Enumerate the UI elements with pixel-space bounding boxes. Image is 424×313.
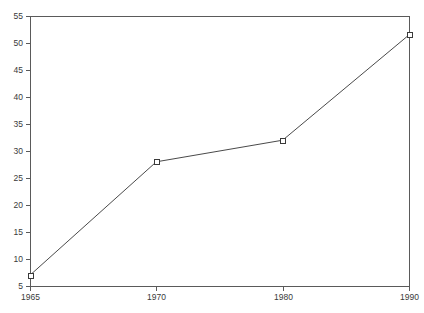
y-tick-label: 40 — [14, 92, 24, 102]
y-tick-label: 15 — [14, 227, 24, 237]
chart-canvas: 510152025303540455055 1965197019801990 1… — [0, 0, 424, 313]
x-tick-label: 1970 — [147, 292, 166, 302]
y-tick-label: 25 — [14, 173, 24, 183]
line-chart: 510152025303540455055 1965197019801990 1… — [0, 0, 424, 313]
data-point-marker: 1970: 28 — [155, 160, 160, 165]
x-tick-label: 1965 — [21, 292, 40, 302]
data-point-marker: 1990: 51.5 — [408, 33, 413, 38]
y-tick-label: 50 — [14, 38, 24, 48]
y-tick-label: 10 — [14, 254, 24, 264]
chart-background — [0, 0, 424, 313]
x-tick-label: 1980 — [274, 292, 293, 302]
y-tick-label: 35 — [14, 119, 24, 129]
y-tick-label: 45 — [14, 65, 24, 75]
data-point-marker: 1980: 32 — [281, 139, 286, 144]
y-tick-label: 5 — [18, 281, 23, 291]
y-tick-label: 55 — [14, 11, 24, 21]
y-tick-label: 20 — [14, 200, 24, 210]
y-tick-label: 30 — [14, 146, 24, 156]
data-point-marker: 1965: 7 — [29, 274, 34, 279]
x-tick-label: 1990 — [400, 292, 419, 302]
